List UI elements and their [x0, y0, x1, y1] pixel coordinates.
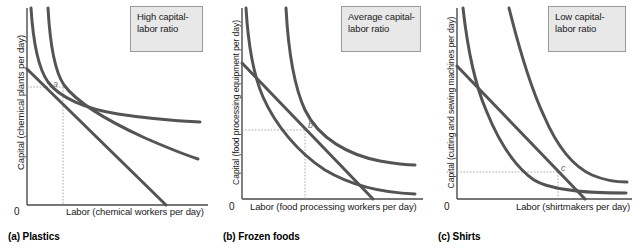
- x-axis-label-b: Labor (food processing workers per day): [250, 201, 417, 212]
- note-text-b: Average capital-labor ratio: [348, 11, 415, 34]
- panel-plastics: a High capital-labor ratio Capital (chem…: [0, 0, 211, 252]
- note-text-c: Low capital-labor ratio: [555, 11, 605, 34]
- tangency-point-label-b: b: [308, 120, 313, 130]
- panel-caption-b: (b) Frozen foods: [223, 231, 300, 242]
- tangency-point-label-c: c: [561, 163, 566, 173]
- origin-label-b: 0: [229, 201, 235, 212]
- y-axis-label-a: Capital (chemical plants per day): [14, 0, 28, 205]
- isocost-line-b: [242, 63, 373, 199]
- note-box-a: High capital-labor ratio: [130, 6, 203, 52]
- x-axis-label-c: Labor (shirtmakers per day): [516, 201, 630, 212]
- y-axis-label-c: Capital (cutting and sewing machines per…: [444, 0, 458, 205]
- isocost-line-c: [457, 66, 585, 199]
- panel-caption-a: (a) Plastics: [8, 231, 60, 242]
- note-box-b: Average capital-labor ratio: [341, 6, 421, 52]
- panel-shirts: c Low capital-labor ratio Capital (cutti…: [430, 0, 634, 252]
- note-text-a: High capital-labor ratio: [137, 11, 189, 34]
- x-axis-label-a: Labor (chemical workers per day): [66, 206, 204, 217]
- y-axis-label-b: Capital (food processing equipment per d…: [229, 0, 243, 205]
- panel-frozen-foods: b Average capital-labor ratio Capital (f…: [215, 0, 426, 252]
- isoquant-figure: a High capital-labor ratio Capital (chem…: [0, 0, 634, 252]
- note-box-c: Low capital-labor ratio: [548, 6, 626, 52]
- origin-label-c: 0: [444, 201, 450, 212]
- panel-caption-c: (c) Shirts: [438, 231, 480, 242]
- tangency-point-label-a: a: [53, 79, 58, 89]
- origin-label-a: 0: [14, 206, 20, 217]
